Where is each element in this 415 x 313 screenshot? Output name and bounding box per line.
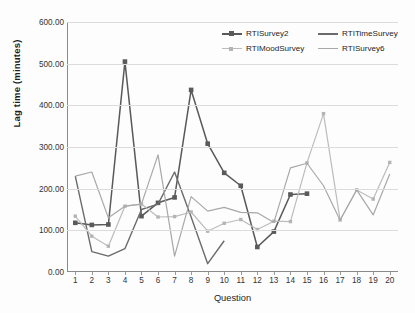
data-point-marker (173, 215, 176, 218)
x-axis-tickmark (158, 272, 159, 275)
legend-label: RTISurvey2 (246, 29, 289, 38)
x-axis-tickmark (175, 272, 176, 275)
legend-label: RTISurvey6 (342, 44, 385, 53)
data-point-marker (106, 222, 111, 227)
y-axis-tick-label: 400.00 (20, 101, 64, 110)
data-point-marker (73, 221, 78, 226)
x-axis-tickmark (224, 272, 225, 275)
x-axis-tickmark (257, 272, 258, 275)
data-point-marker (90, 234, 93, 237)
y-axis-tick-label: 500.00 (20, 59, 64, 68)
data-point-marker (156, 215, 159, 218)
series-rtitimesurvey (75, 172, 224, 264)
legend-item-rtimoodsurvey[interactable]: RTIMoodSurvey (222, 44, 318, 53)
data-point-marker (305, 191, 310, 196)
x-axis-tick-label: 6 (151, 276, 165, 285)
x-axis-tickmark (92, 272, 93, 275)
y-axis-tick-label: 600.00 (20, 18, 64, 27)
x-axis-tick-label: 12 (250, 276, 264, 285)
gridline (67, 189, 398, 190)
x-axis-tick-label: 2 (85, 276, 99, 285)
series-rtisurvey6 (75, 155, 389, 256)
y-axis-tick-label: 100.00 (20, 226, 64, 235)
y-axis-tick-label: 0.00 (20, 268, 64, 277)
x-axis-tickmark (191, 272, 192, 275)
x-axis-tickmark (324, 272, 325, 275)
data-point-marker (238, 183, 243, 188)
x-axis-tick-label: 7 (168, 276, 182, 285)
gridline (67, 147, 398, 148)
legend-item-rtitimesurvey[interactable]: RTITimeSurvey (318, 29, 398, 38)
x-axis-tick-label: 8 (184, 276, 198, 285)
y-axis-tick-labels: 0.00100.00200.00300.00400.00500.00600.00 (16, 0, 64, 313)
x-axis-tickmark (274, 272, 275, 275)
data-point-marker (239, 218, 242, 221)
data-point-marker (371, 197, 374, 200)
legend-row: RTISurvey2RTITimeSurvey (222, 26, 402, 41)
x-axis-tickmark (125, 272, 126, 275)
legend-label: RTITimeSurvey (342, 29, 398, 38)
data-point-marker (222, 171, 227, 176)
x-axis-tickmark (340, 272, 341, 275)
data-point-marker (223, 222, 226, 225)
x-axis-tickmark (357, 272, 358, 275)
x-axis-tick-label: 10 (217, 276, 231, 285)
gridline (67, 105, 398, 106)
x-axis-tickmark (373, 272, 374, 275)
y-axis-tick-label: 300.00 (20, 143, 64, 152)
legend-item-rtisurvey2[interactable]: RTISurvey2 (222, 29, 318, 38)
x-axis-tick-label: 16 (317, 276, 331, 285)
data-point-marker (289, 220, 292, 223)
data-point-marker (288, 192, 293, 197)
series-line (75, 155, 389, 256)
x-axis-tickmark (290, 272, 291, 275)
x-axis-tick-label: 14 (283, 276, 297, 285)
data-point-marker (189, 88, 194, 93)
legend-item-rtisurvey6[interactable]: RTISurvey6 (318, 44, 385, 53)
y-axis-tick-label: 200.00 (20, 184, 64, 193)
x-axis-tick-label: 4 (118, 276, 132, 285)
x-axis-tick-label: 1 (68, 276, 82, 285)
legend-swatch-icon (222, 29, 242, 38)
legend-row: RTIMoodSurveyRTISurvey6 (222, 41, 402, 56)
legend-label: RTIMoodSurvey (246, 44, 304, 53)
x-axis-tickmark (141, 272, 142, 275)
data-point-marker (322, 112, 325, 115)
data-point-marker (388, 161, 391, 164)
series-line (75, 172, 224, 264)
legend-swatch-icon (318, 29, 338, 38)
gridline (67, 22, 398, 23)
x-axis-tickmark (208, 272, 209, 275)
x-axis-title: Question (67, 293, 398, 303)
gridline (67, 230, 398, 231)
x-axis-tickmark (390, 272, 391, 275)
x-axis-tick-label: 19 (366, 276, 380, 285)
x-axis-tickmark (307, 272, 308, 275)
x-axis-tick-label: 17 (333, 276, 347, 285)
legend-swatch-icon (318, 44, 338, 53)
data-point-marker (172, 195, 177, 200)
x-axis-tick-label: 15 (300, 276, 314, 285)
x-axis-tickmark (75, 272, 76, 275)
x-axis-tick-label: 11 (234, 276, 248, 285)
x-axis-tick-label: 18 (350, 276, 364, 285)
x-axis-tick-label: 13 (267, 276, 281, 285)
plot-area (67, 22, 398, 272)
gridline (67, 64, 398, 65)
x-axis-tick-label: 20 (383, 276, 397, 285)
chart-legend: RTISurvey2RTITimeSurveyRTIMoodSurveyRTIS… (222, 26, 402, 56)
data-point-marker (90, 223, 95, 228)
x-axis-tickmark (241, 272, 242, 275)
data-point-marker (189, 210, 192, 213)
x-axis-tick-label: 3 (101, 276, 115, 285)
x-axis-tick-label: 9 (201, 276, 215, 285)
data-point-marker (107, 244, 110, 247)
x-axis-tick-label: 5 (134, 276, 148, 285)
data-point-marker (205, 141, 210, 146)
data-point-marker (255, 245, 260, 250)
line-chart: Lag time (minutes) 0.00100.00200.00300.0… (0, 0, 415, 313)
data-point-marker (74, 214, 77, 217)
x-axis-tickmark (108, 272, 109, 275)
legend-swatch-icon (222, 44, 242, 53)
